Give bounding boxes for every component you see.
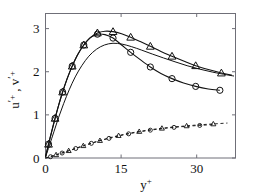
y-tick-label: 3 [33, 21, 40, 36]
chart-canvas: 01530 0123 y+ u′+ , v′+ [0, 0, 253, 196]
figure-container: 01530 0123 y+ u′+ , v′+ [0, 0, 253, 196]
y-tick-label: 1 [33, 107, 40, 122]
x-tick-label: 0 [42, 161, 49, 176]
y-tick-label: 0 [33, 151, 40, 166]
x-tick-label: 30 [190, 161, 203, 176]
x-tick-label: 15 [115, 161, 128, 176]
y-tick-label: 2 [33, 64, 40, 79]
